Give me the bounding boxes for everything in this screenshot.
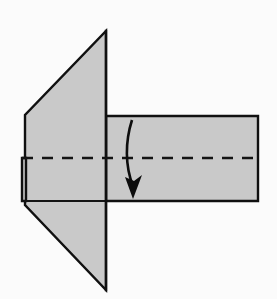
origami-diagram-container: [0, 0, 277, 299]
origami-diagram-svg: [0, 0, 277, 299]
left-edge-tab: [22, 158, 26, 201]
